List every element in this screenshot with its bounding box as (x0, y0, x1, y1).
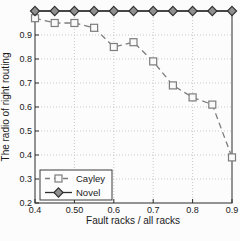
y-tick-label: 0.8 (19, 54, 32, 64)
y-tick-label: 0.7 (19, 78, 32, 88)
marker-square-cayley (189, 94, 196, 101)
chart-figure: 0.40.500.60.70.80.90.20.30.40.50.60.70.8… (0, 0, 240, 241)
marker-diamond-novel (188, 6, 197, 15)
x-tick-label: 0.7 (147, 205, 160, 215)
marker-diamond-novel (149, 6, 158, 15)
marker-square-cayley (229, 154, 236, 161)
legend-label-cayley: Cayley (76, 173, 105, 184)
x-tick-label: 0.50 (66, 205, 84, 215)
marker-square-cayley (51, 20, 58, 27)
marker-square-cayley (130, 39, 137, 46)
x-axis-label: Fault racks / all racks (86, 215, 180, 226)
plot-area: 0.40.500.60.70.80.90.20.30.40.50.60.70.8… (0, 0, 240, 241)
marker-square-cayley (71, 20, 78, 27)
x-tick-label: 0.9 (226, 205, 239, 215)
marker-square-cayley (110, 44, 117, 51)
marker-diamond-novel (208, 6, 217, 15)
y-tick-label: 0.4 (19, 150, 32, 160)
marker-diamond-novel (70, 6, 79, 15)
marker-square-cayley (55, 175, 62, 182)
marker-square-cayley (91, 24, 98, 31)
legend-label-novel: Novel (76, 187, 100, 198)
y-tick-label: 0.3 (19, 174, 32, 184)
marker-diamond-novel (50, 6, 59, 15)
marker-square-cayley (150, 58, 157, 65)
y-tick-label: 0.2 (19, 198, 32, 208)
legend: CayleyNovel (40, 170, 112, 200)
x-tick-label: 0.6 (108, 205, 121, 215)
chart-render-layer: 0.40.500.60.70.80.90.20.30.40.50.60.70.8… (19, 6, 238, 215)
y-tick-label: 0.5 (19, 126, 32, 136)
marker-diamond-novel (129, 6, 138, 15)
x-tick-label: 0.8 (186, 205, 199, 215)
marker-diamond-novel (168, 6, 177, 15)
y-tick-label: 0.9 (19, 30, 32, 40)
marker-square-cayley (169, 82, 176, 89)
marker-diamond-novel (227, 6, 236, 15)
y-axis-label: The radio of right routing (0, 53, 11, 162)
y-tick-label: 0.6 (19, 102, 32, 112)
marker-diamond-novel (90, 6, 99, 15)
marker-square-cayley (209, 101, 216, 108)
marker-diamond-novel (109, 6, 118, 15)
